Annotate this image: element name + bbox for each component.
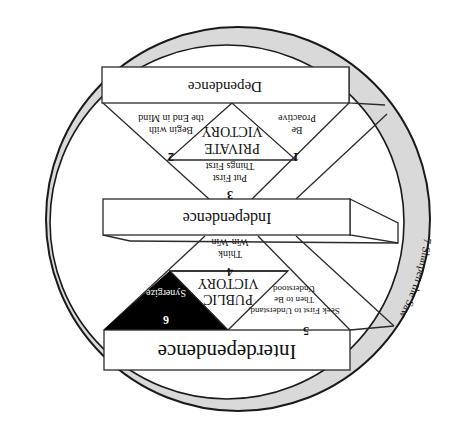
seven-habits-diagram: Dependence Independence Interdependence … bbox=[0, 0, 475, 432]
habit-2-number: 2 bbox=[168, 150, 174, 164]
habit-5-line1: Seek First to Understand, bbox=[248, 306, 340, 316]
habit-6-number: 6 bbox=[163, 313, 169, 327]
interdependence-label: Interdependence bbox=[158, 340, 297, 364]
private-victory-line1: PRIVATE bbox=[204, 141, 260, 156]
habit-1-number: 1 bbox=[293, 150, 299, 164]
independence-label: Independence bbox=[183, 209, 272, 227]
habit-5-line3: Understood bbox=[273, 284, 315, 294]
habit-1-line2: Proactive bbox=[278, 113, 316, 124]
habit-3-line2: Things First bbox=[205, 161, 254, 172]
habit-3-number: 3 bbox=[227, 188, 233, 202]
habit-4-line1: Think bbox=[218, 249, 242, 260]
habit-5-number: 5 bbox=[303, 324, 309, 338]
habit-2-line2: the End in Mind bbox=[138, 113, 203, 124]
habit-3-line1: Put First bbox=[213, 173, 247, 184]
habit-4-line2: Win-Win bbox=[212, 237, 249, 248]
public-victory-line2: VICTORY bbox=[197, 276, 258, 291]
habit-2-line1: Begin with bbox=[149, 125, 193, 136]
private-victory-line2: VICTORY bbox=[201, 124, 262, 139]
habit-5-line2: Then to Be bbox=[274, 295, 314, 305]
habit-1-line1: Be bbox=[291, 125, 303, 136]
dependence-label: Dependence bbox=[188, 79, 262, 95]
habit-6-label: Synergize bbox=[146, 288, 186, 299]
public-victory-line1: PUBLIC bbox=[203, 292, 253, 307]
